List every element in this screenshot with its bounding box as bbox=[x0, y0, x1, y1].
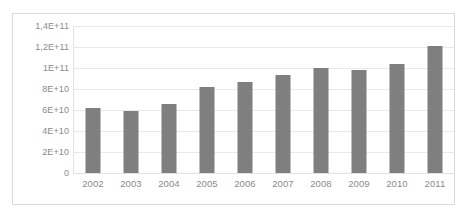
x-tick-label: 2010 bbox=[378, 177, 416, 191]
y-tick-label: 1,2E+11 bbox=[13, 42, 69, 52]
y-tick-label: 0 bbox=[13, 168, 69, 178]
x-tick-label: 2007 bbox=[264, 177, 302, 191]
bar[interactable] bbox=[238, 82, 253, 173]
y-tick-label: 8E+10 bbox=[13, 84, 69, 94]
bar-slot bbox=[264, 26, 302, 173]
bar[interactable] bbox=[124, 111, 139, 173]
bar-slot bbox=[378, 26, 416, 173]
x-tick-label: 2003 bbox=[112, 177, 150, 191]
y-tick-label: 1,4E+11 bbox=[13, 21, 69, 31]
bar[interactable] bbox=[162, 104, 177, 173]
bar[interactable] bbox=[200, 87, 215, 173]
bar-slot bbox=[302, 26, 340, 173]
x-tick-label: 2006 bbox=[226, 177, 264, 191]
bar-slot bbox=[150, 26, 188, 173]
bar[interactable] bbox=[86, 108, 101, 173]
x-tick-label: 2004 bbox=[150, 177, 188, 191]
x-tick-label: 2008 bbox=[302, 177, 340, 191]
gridline bbox=[74, 173, 454, 174]
plot-area bbox=[74, 26, 454, 173]
bar-slot bbox=[74, 26, 112, 173]
bar[interactable] bbox=[276, 75, 291, 173]
y-tick-label: 1E+11 bbox=[13, 63, 69, 73]
y-axis-tick-labels: 1,4E+111,2E+111E+118E+106E+104E+102E+100 bbox=[13, 14, 69, 185]
y-tick-label: 4E+10 bbox=[13, 126, 69, 136]
x-tick-label: 2011 bbox=[416, 177, 454, 191]
bar-chart-figure: 1,4E+111,2E+111E+118E+106E+104E+102E+100… bbox=[12, 13, 455, 205]
bar[interactable] bbox=[314, 68, 329, 173]
bar-slot bbox=[112, 26, 150, 173]
x-axis-tick-labels: 2002200320042005200620072008200920102011 bbox=[74, 177, 454, 193]
bar[interactable] bbox=[390, 64, 405, 173]
x-tick-label: 2005 bbox=[188, 177, 226, 191]
bar-slot bbox=[416, 26, 454, 173]
bar-slot bbox=[188, 26, 226, 173]
x-tick-label: 2009 bbox=[340, 177, 378, 191]
x-tick-label: 2002 bbox=[74, 177, 112, 191]
bar-slot bbox=[226, 26, 264, 173]
bar-slot bbox=[340, 26, 378, 173]
bar[interactable] bbox=[428, 46, 443, 173]
y-tick-label: 2E+10 bbox=[13, 147, 69, 157]
y-tick-label: 6E+10 bbox=[13, 105, 69, 115]
bar[interactable] bbox=[352, 70, 367, 173]
